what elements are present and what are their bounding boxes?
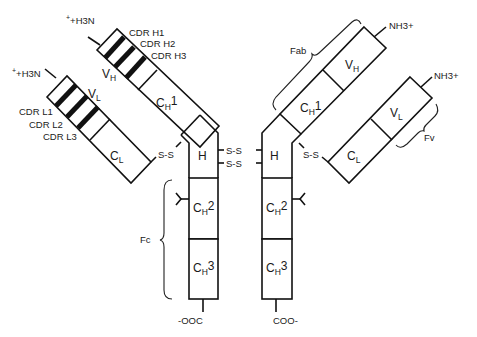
- right-interchain-disulfide-label: S-S: [303, 149, 319, 160]
- right-hinge-label: H: [270, 149, 279, 163]
- right-hinge-inner: [292, 134, 301, 178]
- fab-label: Fab: [290, 45, 306, 56]
- fc-brace: [160, 180, 172, 299]
- right-heavy-n-terminus-tail: [374, 27, 386, 37]
- left-vl-label: VL: [88, 87, 101, 103]
- antibody-diagram: ++H3N CDR H1 CDR H2 CDR H3 VH CH1 ++H3N …: [0, 0, 477, 337]
- left-light-ss-link: [151, 157, 156, 162]
- left-light-n-terminus-tail: [45, 69, 56, 78]
- right-glycan-icon: [300, 193, 305, 205]
- fc-label: Fc: [140, 234, 151, 245]
- right-light-ss-link: [322, 157, 328, 162]
- right-heavy-n-terminus-label: NH3+: [389, 20, 414, 31]
- cdr-l3-label: CDR L3: [43, 131, 77, 142]
- hinge-disulfide-2-label: S-S: [226, 158, 242, 169]
- hinge-disulfide-1-label: S-S: [226, 145, 242, 156]
- left-vh-label: VH: [102, 67, 116, 83]
- right-hinge-outer: [262, 114, 280, 178]
- left-hinge-label: H: [198, 149, 207, 163]
- left-glycan-icon: [176, 193, 181, 205]
- right-light-chain: [328, 77, 432, 183]
- right-light-arm-outline: [328, 77, 432, 183]
- left-heavy-n-terminus-label: ++H3N: [66, 14, 95, 26]
- cdr-l1-label: CDR L1: [19, 106, 53, 117]
- cdr-h2-label: CDR H2: [140, 38, 175, 49]
- right-light-n-terminus-label: NH3+: [434, 70, 459, 81]
- cdr-h1-label: CDR H1: [129, 27, 164, 38]
- fv-label: Fv: [424, 132, 435, 143]
- left-hinge-inner: [181, 135, 189, 178]
- right-heavy-ss-link: [299, 143, 304, 148]
- right-light-n-terminus-tail: [421, 77, 432, 87]
- left-heavy-ss-link: [176, 142, 181, 147]
- left-heavy-n-terminus-tail: [88, 37, 100, 45]
- cdr-h3-label: CDR H3: [151, 50, 186, 61]
- left-interchain-disulfide-label: S-S: [158, 149, 174, 160]
- cropped-caption-line: [22, 325, 472, 329]
- cdr-l2-label: CDR L2: [29, 119, 63, 130]
- left-light-n-terminus-label: ++H3N: [12, 67, 41, 79]
